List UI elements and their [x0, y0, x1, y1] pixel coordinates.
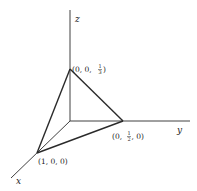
coordinate-diagram: z y x (0, 0, 1 3 ) (0, 1 2 , 0) (1, 0, 0…	[0, 0, 197, 191]
y-axis-label: y	[176, 125, 183, 135]
y-vertex-frac-den: 2	[128, 136, 131, 142]
y-vertex-label-suffix: , 0)	[132, 132, 145, 141]
x-vertex-label: (1, 0, 0)	[38, 157, 68, 166]
z-vertex-label-prefix: (0, 0,	[72, 65, 92, 74]
z-vertex-frac-den: 3	[99, 69, 102, 75]
y-vertex-label-prefix: (0,	[112, 132, 122, 141]
edge-z-to-y	[70, 69, 123, 121]
z-vertex-label-suffix: )	[103, 65, 106, 74]
z-vertex-label: (0, 0, 1 3 )	[72, 63, 106, 75]
y-vertex-label: (0, 1 2 , 0)	[112, 130, 144, 142]
edge-x-to-y	[37, 121, 123, 153]
z-axis-label: z	[74, 14, 80, 24]
x-axis-label: x	[16, 176, 21, 186]
x-axis	[11, 121, 70, 178]
edge-z-to-x	[37, 69, 70, 153]
